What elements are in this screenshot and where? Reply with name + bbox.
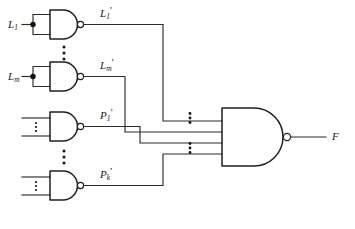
label-gate-p1-output: P1' xyxy=(100,108,112,123)
circuit-diagram-canvas: L1 Lm L1' Lm' P1' Pk' F xyxy=(0,0,355,229)
gate-p1-body xyxy=(50,112,78,141)
label-gate-p1-output-base: P xyxy=(100,109,107,121)
gate-p1-output-bubble xyxy=(77,123,83,129)
label-gate-p1-output-sub: 1 xyxy=(107,114,111,123)
label-gate-pk-output: Pk' xyxy=(100,167,112,182)
wire-p1-prime-to-output-gate xyxy=(84,127,222,144)
gate-pk-output-bubble xyxy=(77,182,83,188)
label-gate-pk-output-prime: ' xyxy=(110,166,112,177)
label-output-f: F xyxy=(332,131,339,142)
gate-l1-body xyxy=(50,10,77,39)
label-gate-l1-output: L1' xyxy=(100,6,112,21)
gate-l1-output-bubble xyxy=(77,21,83,27)
label-gate-p1-output-prime: ' xyxy=(111,107,113,118)
circuit-schematic xyxy=(0,0,355,229)
label-gate-lm-input: Lm xyxy=(8,71,20,84)
gate-pk-body xyxy=(50,171,78,200)
gate-f-group xyxy=(222,108,326,166)
label-gate-l1-input-sub: 1 xyxy=(14,23,18,32)
label-gate-lm-output: Lm' xyxy=(100,58,114,73)
ellipsis-gate-pk-inputs xyxy=(35,181,37,191)
wire-lm-prime-to-output-gate xyxy=(84,77,222,133)
label-gate-lm-input-sub: m xyxy=(14,75,19,84)
gate-pk-group xyxy=(22,154,222,200)
label-gate-l1-output-prime: ' xyxy=(110,5,112,16)
gate-f-output-bubble xyxy=(283,133,290,140)
gate-f-body xyxy=(222,108,283,166)
label-gate-lm-output-sub: m xyxy=(106,64,111,73)
ellipsis-gate-p1-inputs xyxy=(35,122,37,132)
ellipsis-output-gate-upper-inputs xyxy=(189,112,192,124)
gate-lm-output-bubble xyxy=(77,73,83,79)
label-gate-pk-output-base: P xyxy=(100,168,107,180)
gate-l1-group xyxy=(22,10,222,121)
gate-l1-input-upper-branch xyxy=(33,15,50,25)
gate-lm-input-upper-branch xyxy=(33,67,50,77)
gate-l1-junction-dot xyxy=(30,22,35,27)
gate-lm-body xyxy=(50,62,78,91)
ellipsis-between-l-gates xyxy=(63,46,66,61)
label-output-f-base: F xyxy=(332,130,339,142)
label-gate-l1-input: L1 xyxy=(8,19,18,32)
ellipsis-output-gate-lower-inputs xyxy=(189,142,192,154)
label-gate-lm-output-prime: ' xyxy=(112,57,114,68)
gate-lm-input-lower-branch xyxy=(33,77,50,87)
ellipsis-between-p-gates xyxy=(63,150,66,165)
gate-lm-junction-dot xyxy=(30,74,35,79)
gate-l1-input-lower-branch xyxy=(33,25,50,35)
gate-p1-group xyxy=(22,112,222,143)
